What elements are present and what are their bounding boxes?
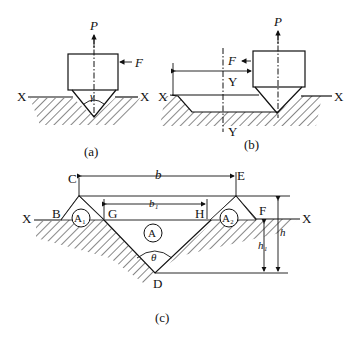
point-d-label: D	[153, 276, 162, 291]
axis-x-right-b: X	[334, 89, 344, 104]
caption-b: (b)	[244, 137, 259, 152]
area-a2-label: A₂	[222, 212, 234, 224]
tool-body-b	[253, 51, 305, 87]
force-p-label-b: P	[273, 14, 282, 29]
axis-x-right-c: X	[302, 211, 312, 226]
ground-hatch-b	[160, 96, 322, 126]
point-f-label: F	[259, 203, 266, 218]
point-g-label: G	[108, 206, 117, 221]
caption-c: (c)	[155, 310, 169, 325]
panel-b: P F Y Y X X (b)	[158, 14, 344, 152]
caption-a: (a)	[84, 144, 98, 159]
section-y-bottom: Y	[228, 124, 238, 139]
point-e-label: E	[237, 168, 245, 183]
height-h-label: h	[280, 226, 286, 238]
axis-x-right-a: X	[140, 89, 150, 104]
force-f-label-a: F	[134, 55, 144, 70]
ground-hatch-a	[30, 98, 140, 125]
panel-a: P F γ X X (a)	[17, 18, 150, 159]
scratch-test-diagram: P F γ X X (a) P F Y Y X	[0, 0, 354, 341]
angle-gamma-label: γ	[90, 90, 95, 102]
width-b-label: b	[155, 167, 162, 182]
section-y-top: Y	[228, 74, 238, 89]
area-a1-label: A₁	[74, 212, 86, 224]
tool-body-a	[68, 54, 118, 90]
angle-theta-label: θ	[151, 251, 157, 263]
width-b1-label: b₁	[149, 197, 159, 209]
axis-x-left-b: X	[158, 89, 168, 104]
axis-x-left-c: X	[22, 211, 32, 226]
point-c-label: C	[68, 171, 77, 186]
panel-c: A₁ A A₂ θ C B G H E F D b b₁ h h₁ X X (c…	[22, 167, 312, 325]
force-p-label-a: P	[89, 18, 98, 33]
point-h-label: H	[195, 206, 204, 221]
force-f-label-b: F	[227, 53, 237, 68]
height-h1-label: h₁	[258, 239, 268, 251]
area-a-label: A	[148, 227, 156, 239]
point-b-label: B	[52, 206, 61, 221]
axis-x-left-a: X	[17, 89, 27, 104]
